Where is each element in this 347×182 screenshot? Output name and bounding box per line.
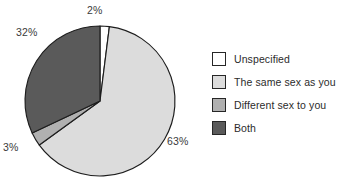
slice-label-both: 32% [16,27,38,38]
legend-item-same-sex: The same sex as you [212,70,345,93]
legend-label-different-sex: Different sex to you [234,99,326,111]
legend-item-different-sex: Different sex to you [212,93,345,116]
slice-label-different-sex: 3% [3,142,19,153]
slice-label-same-sex: 63% [167,136,189,147]
pie-plot-area: 2% 32% 3% 63% [0,0,205,182]
legend-swatch-icon-both [212,121,226,135]
legend-label-unspecified: Unspecified [234,53,290,65]
slice-label-unspecified: 2% [87,5,103,16]
legend-swatch-icon-unspecified [212,52,226,66]
legend-swatch-icon-different-sex [212,98,226,112]
legend-swatch-icon-same-sex [212,75,226,89]
pie-chart-figure: 2% 32% 3% 63% Unspecified The same sex a… [0,0,347,182]
legend-item-unspecified: Unspecified [212,47,345,70]
legend-label-both: Both [234,122,256,134]
legend-item-both: Both [212,116,345,139]
chart-legend: Unspecified The same sex as you Differen… [212,47,345,139]
pie-slice-group [25,26,175,176]
legend-label-same-sex: The same sex as you [234,76,336,88]
